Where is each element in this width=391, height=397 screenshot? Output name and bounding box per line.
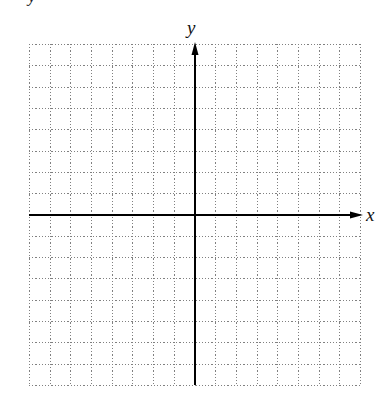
axes	[29, 42, 363, 385]
y-axis-label: y	[187, 18, 195, 37]
x-axis-label: x	[366, 205, 374, 224]
coordinate-grid	[0, 0, 391, 397]
